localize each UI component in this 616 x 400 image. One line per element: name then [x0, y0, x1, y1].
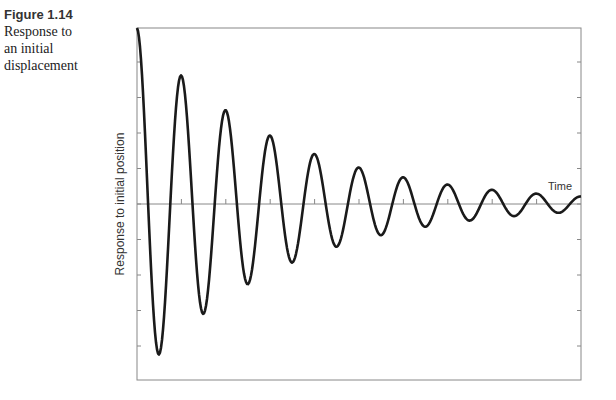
x-axis-label: Time	[548, 180, 572, 192]
y-axis-label: Response to initial position	[113, 133, 127, 276]
response-curve	[137, 28, 581, 355]
chart-canvas	[0, 0, 616, 400]
